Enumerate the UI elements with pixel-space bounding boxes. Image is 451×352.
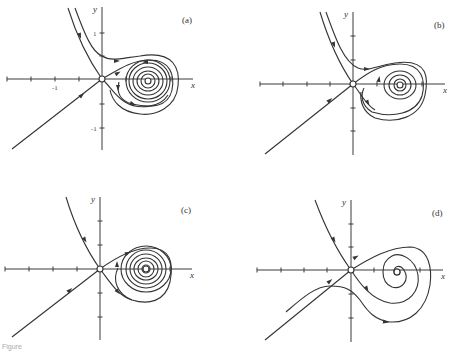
trajectory [265,270,351,340]
x-tick-label: -1 [52,84,58,92]
trajectory [102,79,168,107]
saddle-point [97,266,103,272]
trajectory [66,197,100,269]
panel-c: xy(c) [5,194,194,340]
trajectory [68,8,102,79]
saddle-point [99,76,105,82]
panel-label: (b) [434,20,445,30]
trajectory [12,269,100,337]
y-axis-label: y [341,197,346,207]
direction-arrow-icon [114,59,120,63]
y-tick-label: -1 [91,125,97,133]
direction-arrow-icon [377,76,382,83]
y-axis-label: y [90,194,95,204]
direction-arrow-icon [116,85,120,91]
panel-a: -11-1xy(a) [7,4,195,150]
saddle-point [348,267,354,273]
x-axis-label: x [442,85,447,95]
trajectory [265,84,353,154]
trajectory [320,12,353,84]
direction-arrow-icon [115,261,119,267]
panel-b: xy(b) [260,9,447,155]
y-axis-label: y [343,9,348,19]
saddle-point [350,81,356,87]
y-tick-label: 1 [93,30,97,38]
phase-portrait-figure: -11-1xy(a) xy(b) xy(c) xy(d) [0,0,451,352]
panel-label: (a) [182,15,192,25]
y-axis-label: y [92,4,97,14]
panel-d: xy(d) [257,197,445,342]
center-point [397,82,403,88]
trajectory [351,255,418,303]
direction-arrow-icon [364,67,370,71]
panel-label: (d) [432,208,443,218]
center-point [145,78,151,84]
direction-arrow-icon [326,278,333,285]
center-point [394,269,400,275]
center-point [143,266,149,272]
trajectory [353,84,375,110]
trajectory [315,200,351,270]
panel-label: (c) [181,205,191,215]
x-axis-label: x [190,80,195,90]
x-axis-label: x [189,270,194,280]
direction-arrow-icon [352,254,359,260]
x-axis-label: x [440,271,445,281]
trajectory [286,247,431,322]
figure-caption: Figure [2,343,22,350]
